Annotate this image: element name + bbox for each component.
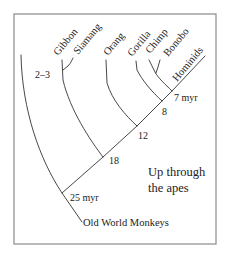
taxon-label-old-world-monkeys: Old World Monkeys bbox=[83, 217, 169, 228]
node-label-12: 12 bbox=[138, 130, 148, 141]
phylogeny-diagram: Gibbon Siamang Orang Gorilla Chimp Bonob… bbox=[0, 0, 227, 259]
caption-line-2: the apes bbox=[148, 181, 189, 195]
branch-chimp bbox=[149, 60, 172, 91]
branch-bonobo bbox=[156, 60, 160, 73]
node-label-8: 8 bbox=[162, 106, 167, 117]
branch-orang bbox=[106, 60, 137, 126]
node-label-2-3: 2–3 bbox=[35, 69, 50, 80]
taxon-label-orang: Orang bbox=[101, 30, 127, 58]
node-label-25-myr: 25 myr bbox=[70, 192, 99, 203]
branch-siamang bbox=[63, 58, 73, 70]
branch-gibbons bbox=[62, 60, 103, 157]
node-label-7-myr: 7 myr bbox=[174, 92, 198, 103]
node-label-18: 18 bbox=[109, 155, 119, 166]
caption-line-1: Up through bbox=[148, 165, 206, 179]
taxon-label-siamang: Siamang bbox=[71, 20, 104, 56]
